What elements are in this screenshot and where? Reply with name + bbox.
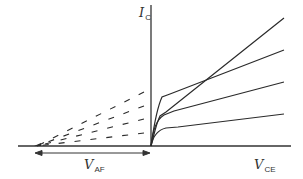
bjt-output-characteristics-diagram: IC VCE VAF [0,0,303,179]
curve-1 [151,18,284,146]
curve-3 [151,82,284,146]
early-voltage-label: VAF [84,158,105,171]
y-axis-label: IC [139,6,151,19]
x-axis-label-sub: CE [264,165,275,174]
x-axis-label: VCE [254,158,276,171]
y-axis-label-sub: C [145,13,151,22]
x-axis-label-main: V [254,157,263,172]
early-voltage-extrapolations [37,92,144,146]
convergence-point-mark [34,143,41,146]
curve-2 [151,50,284,146]
curve-4 [151,114,284,146]
early-voltage-label-main: V [84,157,93,172]
vaf-dimension-arrow [35,151,150,156]
extrapolation-3 [37,119,144,146]
y-axis-label-main: I [139,5,144,20]
characteristic-curves [151,18,284,146]
diagram-canvas [0,0,303,179]
extrapolation-1 [37,92,144,146]
early-voltage-label-sub: AF [94,165,104,174]
